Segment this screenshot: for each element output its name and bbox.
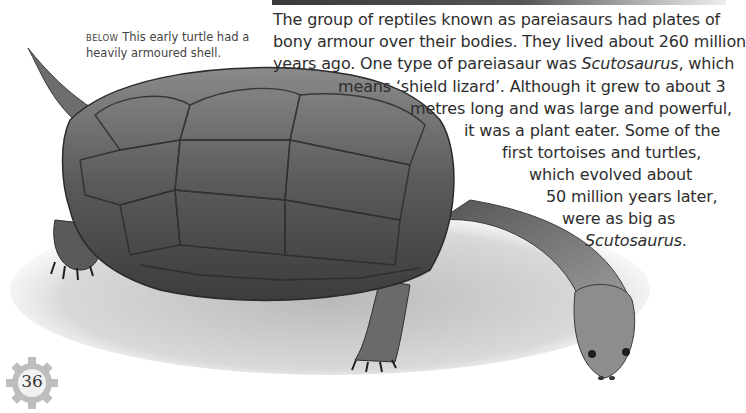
text-line: The group of reptiles known as pareiasau… (273, 9, 720, 31)
text-line: years ago. One type of pareiasaur was Sc… (273, 53, 734, 75)
text-line: which evolved about (529, 164, 692, 186)
text-line: first tortoises and turtles, (502, 142, 701, 164)
genus-name: Scutosaurus (582, 54, 679, 73)
text-segment: , which (678, 54, 734, 73)
text-line: means ‘shield lizard’. Although it grew … (338, 76, 726, 98)
text-segment: years ago. One type of pareiasaur was (273, 54, 582, 73)
text-line: metres long and was large and powerful, (410, 98, 732, 120)
text-line: were as big as (562, 208, 675, 230)
text-line: 50 million years later, (546, 186, 718, 208)
page-number: 36 (18, 371, 46, 391)
text-line: it was a plant eater. Some of the (464, 120, 720, 142)
genus-name: Scutosaurus (585, 231, 682, 250)
text-segment: . (682, 231, 687, 250)
text-line: Scutosaurus. (585, 230, 687, 252)
text-line: bony armour over their bodies. They live… (273, 31, 746, 53)
page-number-badge: 36 (4, 355, 60, 411)
